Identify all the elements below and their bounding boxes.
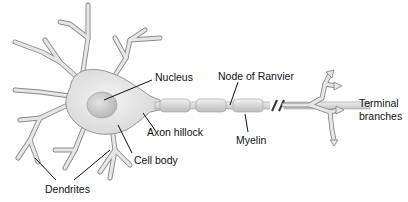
neuron-diagram: Nucleus Node of Ranvier Terminal branche…: [0, 0, 408, 202]
myelin-sheath-3: [233, 99, 263, 112]
label-terminal-line1: Terminal: [359, 97, 399, 109]
myelin-sheath-2: [196, 99, 226, 112]
label-myelin: Myelin: [236, 134, 267, 146]
label-axon-hillock: Axon hillock: [147, 126, 204, 138]
label-node-of-ranvier: Node of Ranvier: [218, 70, 294, 82]
label-cell-body: Cell body: [134, 154, 179, 166]
myelin-sheath-1: [160, 99, 190, 112]
nucleus: [87, 92, 117, 118]
label-nucleus: Nucleus: [155, 71, 193, 83]
label-dendrites: Dendrites: [45, 183, 90, 195]
label-terminal-line2: branches: [359, 110, 402, 122]
